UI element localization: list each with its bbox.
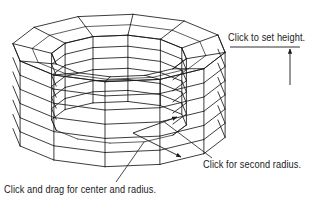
center-radius-label: Click and drag for center and radius. (4, 183, 156, 195)
first-radius-arrow-icon (133, 117, 177, 133)
diagram-canvas: Click to set height. Click for second ra… (0, 0, 319, 202)
second-radius-label: Click for second radius. (203, 158, 301, 170)
set-height-label: Click to set height. (228, 31, 305, 43)
second-radius-arrow-icon (133, 133, 181, 157)
center-leader (116, 142, 144, 182)
second-radius-leader (163, 121, 212, 158)
